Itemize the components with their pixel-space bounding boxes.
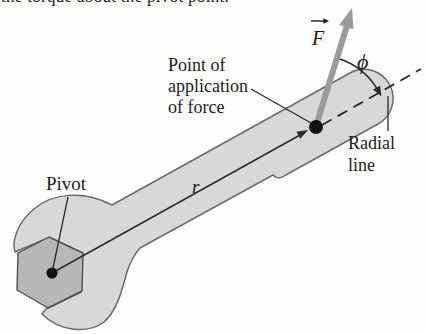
force-vector-arrowhead [339,8,353,29]
point-of-application-label-line1: Point of [168,55,226,75]
radial-line-label-line1: Radial [348,133,395,153]
angle-symbol-label: ϕ [357,49,368,74]
radial-line-label-line2: line [348,155,375,175]
cropped-caption-text: the torque about the pivot point. [1,0,301,7]
force-vector-hat-icon [311,18,329,23]
torque-wrench-figure: the torque about the pivot point. Pivot … [0,0,426,334]
wrench-diagram-canvas: Pivot Point of application of force Radi… [0,0,426,334]
radius-symbol-label: r [192,176,200,197]
force-symbol-label: F [311,27,325,49]
pivot-label: Pivot [46,173,87,194]
application-point-dot [309,120,323,134]
point-of-application-label-line3: of force [168,97,224,117]
pivot-dot [47,268,58,279]
point-of-application-label-line2: application [168,76,248,96]
